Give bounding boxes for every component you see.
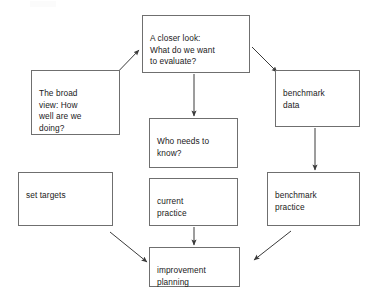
node-benchmark-data[interactable]: benchmark data xyxy=(275,70,360,127)
node-closer-look-label: A closer look: What do we want to evalua… xyxy=(150,33,215,66)
arrow-closer-look-to-benchmark-data xyxy=(252,47,277,72)
node-broad-view-label: The broad view: How well are we doing? xyxy=(39,88,81,132)
node-who-needs-to-know-label: Who needs to know? xyxy=(157,136,209,157)
scan-artifact xyxy=(30,1,56,7)
flowchart-diagram: A closer look: What do we want to evalua… xyxy=(0,0,374,303)
node-set-targets[interactable]: set targets xyxy=(18,172,113,226)
node-benchmark-practice-label: benchmark practice xyxy=(275,190,317,211)
node-who-needs-to-know[interactable]: Who needs to know? xyxy=(149,118,238,168)
node-benchmark-data-label: benchmark data xyxy=(283,88,325,109)
node-current-practice-label: current practice xyxy=(157,196,187,217)
node-current-practice[interactable]: current practice xyxy=(149,178,238,226)
node-improvement-planning-label: improvement planning xyxy=(157,265,206,286)
arrow-set-targets-to-improvement-planning xyxy=(110,232,147,262)
arrow-benchmark-practice-to-improvement-planning xyxy=(254,231,291,260)
node-broad-view[interactable]: The broad view: How well are we doing? xyxy=(31,70,120,135)
node-set-targets-label: set targets xyxy=(26,190,66,200)
node-improvement-planning[interactable]: improvement planning xyxy=(149,247,240,287)
node-closer-look[interactable]: A closer look: What do we want to evalua… xyxy=(142,15,250,73)
node-benchmark-practice[interactable]: benchmark practice xyxy=(267,172,360,226)
